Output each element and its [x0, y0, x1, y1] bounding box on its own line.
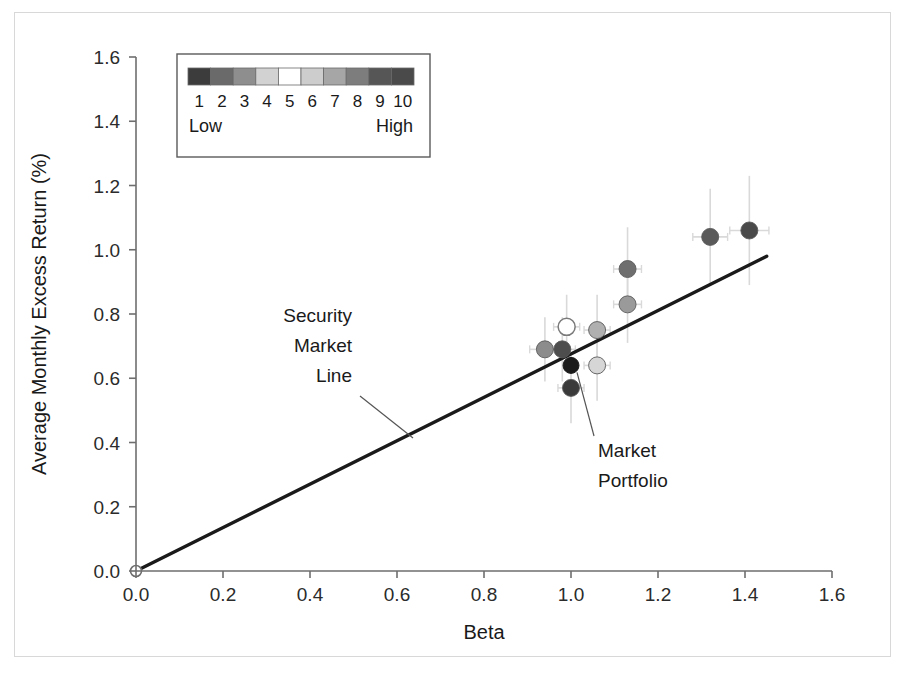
legend-number-7: 7 [330, 92, 339, 111]
data-points-layer [536, 222, 757, 396]
legend-layer: 12345678910LowHigh [177, 54, 430, 157]
legend-number-8: 8 [353, 92, 362, 111]
x-tick-label: 0.8 [471, 584, 497, 605]
data-point-decile-5[interactable] [589, 357, 606, 374]
data-point-decile-4[interactable] [558, 318, 575, 335]
legend-number-3: 3 [240, 92, 249, 111]
x-tick-label: 0.4 [297, 584, 324, 605]
legend-number-5: 5 [285, 92, 294, 111]
security-market-line-leader [360, 396, 413, 438]
x-tick-label: 0.6 [384, 584, 410, 605]
market-portfolio-label-line: Portfolio [598, 470, 668, 491]
y-tick-label: 0.8 [94, 304, 120, 325]
legend-swatch-7[interactable] [324, 68, 347, 85]
x-tick-label: 0.2 [210, 584, 236, 605]
x-axis-title: Beta [463, 621, 505, 643]
legend-number-1: 1 [195, 92, 204, 111]
legend-low-label: Low [189, 116, 223, 136]
x-tick-label: 1.0 [558, 584, 584, 605]
x-tick-label: 1.4 [732, 584, 759, 605]
market-portfolio-label-line: Market [598, 440, 657, 461]
axes-layer: 0.00.20.40.60.81.01.21.41.60.00.20.40.60… [28, 47, 845, 643]
legend-number-2: 2 [217, 92, 226, 111]
y-tick-label: 1.4 [94, 111, 121, 132]
data-point-decile-1[interactable] [536, 341, 553, 358]
data-point-decile-6[interactable] [589, 322, 606, 339]
y-tick-label: 1.2 [94, 176, 120, 197]
market-portfolio-leader [577, 372, 594, 436]
legend-swatch-6[interactable] [301, 68, 324, 85]
security-market-line-label-line: Line [316, 365, 352, 386]
security-market-line [136, 256, 767, 571]
legend-number-9: 9 [375, 92, 384, 111]
legend-high-label: High [376, 116, 413, 136]
legend-swatch-9[interactable] [369, 68, 392, 85]
data-point-decile-2[interactable] [554, 341, 571, 358]
x-tick-label: 1.2 [645, 584, 671, 605]
y-tick-label: 0.2 [94, 497, 120, 518]
y-tick-label: 0.4 [94, 433, 121, 454]
y-tick-label: 0.6 [94, 368, 120, 389]
y-axis-title: Average Monthly Excess Return (%) [28, 153, 50, 475]
security-market-line-layer [131, 256, 767, 576]
data-point-decile-8[interactable] [619, 261, 636, 278]
legend-number-6: 6 [308, 92, 317, 111]
data-point-decile-7[interactable] [619, 296, 636, 313]
security-market-line-label-line: Market [294, 335, 353, 356]
legend-swatch-2[interactable] [211, 68, 234, 85]
y-tick-label: 1.0 [94, 240, 120, 261]
y-tick-label: 0.0 [94, 561, 120, 582]
data-point-market-portfolio[interactable] [563, 357, 579, 373]
security-market-line-label-line: Security [283, 305, 352, 326]
data-point-decile-3[interactable] [563, 379, 580, 396]
figure-container: 0.00.20.40.60.81.01.21.41.60.00.20.40.60… [0, 0, 911, 687]
x-tick-label: 1.6 [819, 584, 845, 605]
legend-swatch-1[interactable] [188, 68, 211, 85]
legend-swatch-3[interactable] [233, 68, 256, 85]
legend-swatch-4[interactable] [256, 68, 279, 85]
y-tick-label: 1.6 [94, 47, 120, 68]
data-point-decile-10[interactable] [741, 222, 758, 239]
data-point-decile-9[interactable] [702, 228, 719, 245]
legend-swatch-8[interactable] [346, 68, 369, 85]
legend-swatch-5[interactable] [278, 68, 301, 85]
legend-number-4: 4 [262, 92, 271, 111]
x-tick-label: 0.0 [123, 584, 149, 605]
legend-swatch-10[interactable] [391, 68, 414, 85]
scatter-chart: 0.00.20.40.60.81.01.21.41.60.00.20.40.60… [0, 0, 911, 687]
legend-number-10: 10 [393, 92, 412, 111]
